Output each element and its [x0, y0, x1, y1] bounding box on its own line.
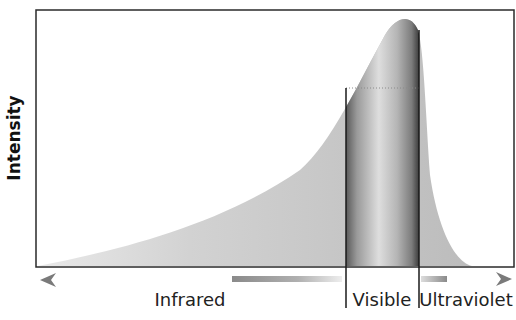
region-label-infrared: Infrared	[155, 289, 226, 310]
infrared-gradient-bar	[232, 276, 342, 282]
visible-band-shading	[346, 0, 419, 267]
spectrum-chart: Intensity Infrared Visible Ultraviolet	[0, 0, 516, 320]
y-axis-label: Intensity	[4, 95, 24, 180]
arrow-left-icon	[40, 273, 56, 287]
arrow-right-icon	[496, 272, 512, 286]
region-label-visible: Visible	[353, 289, 412, 310]
ultraviolet-gradient-bar	[421, 276, 447, 282]
intensity-curve	[38, 0, 472, 267]
region-label-ultraviolet: Ultraviolet	[419, 289, 512, 310]
